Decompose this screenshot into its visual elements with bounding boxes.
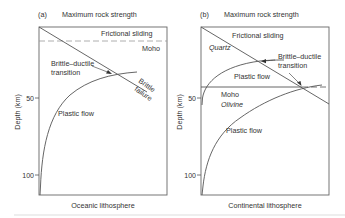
panel-b-plastic-lower-label: Plastic flow (226, 126, 263, 135)
panel-b-x-axis-label: Continental lithosphere (228, 201, 302, 210)
panel-b-frictional-label: Frictional sliding (232, 31, 284, 40)
panel-a-frictional-label: Frictional sliding (101, 29, 153, 38)
panel-a-y-axis-label: Depth (km) (13, 94, 22, 130)
panel-b-moho-label: Moho (221, 90, 239, 99)
panel-a-tick-label-100: 100 (22, 172, 34, 179)
panel-a-moho-label: Moho (142, 44, 160, 53)
panel-a-bdt-label-1: Brittle–ductile (51, 59, 94, 68)
panel-a: (a) Maximum rock strength Frictional sli… (13, 10, 167, 210)
panel-b-olivine-curve (202, 85, 322, 195)
panel-b-bdt-label-1: Brittle–ductile (278, 52, 321, 61)
panel-b-bdt-label-2: transition (278, 61, 307, 70)
panel-a-plastic-label: Plastic flow (58, 109, 95, 118)
panel-b-title: Maximum rock strength (224, 10, 299, 19)
panel-a-tag: (a) (38, 10, 47, 19)
panel-b-tag: (b) (200, 10, 209, 19)
panel-a-x-axis-label: Oceanic lithosphere (71, 201, 135, 210)
panel-b-bdt-arrowhead-upper (261, 59, 266, 63)
panel-a-title: Maximum rock strength (62, 10, 137, 19)
panel-b-tick-label-50: 50 (188, 95, 196, 102)
panel-b-y-axis-label: Depth (km) (175, 94, 184, 130)
panel-b-olivine-label: Olivine (221, 100, 243, 109)
panel-b-quartz-curve (202, 60, 284, 105)
panel-a-plastic-flow-curve (40, 72, 137, 195)
panel-b-tick-label-100: 100 (184, 172, 196, 179)
strength-profile-diagram: (a) Maximum rock strength Frictional sli… (0, 0, 345, 218)
panel-b-plastic-upper-label: Plastic flow (234, 72, 271, 81)
panel-a-tick-label-50: 50 (26, 95, 34, 102)
panel-b-quartz-label: Quartz (209, 43, 231, 52)
panel-a-bdt-label-2: transition (51, 68, 80, 77)
panel-b: (b) Maximum rock strength Frictional sli… (175, 10, 329, 210)
